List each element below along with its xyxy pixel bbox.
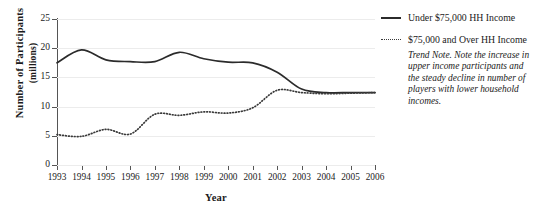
x-tick-mark-1995	[106, 166, 107, 170]
x-tick-mark-1996	[130, 166, 131, 170]
x-tick-mark-1993	[57, 166, 58, 170]
y-tick-label-10: 10	[6, 102, 50, 112]
y-tick-label-5: 5	[6, 131, 50, 141]
x-tick-mark-2001	[253, 166, 254, 170]
legend-label-75000-and-over: $75,000 and Over HH Income	[408, 34, 527, 45]
y-tick-mark-25	[52, 19, 57, 20]
legend-label-under-75000: Under $75,000 HH Income	[408, 12, 515, 23]
chart-figure: Number of Participants (millions) 051015…	[0, 0, 534, 223]
solid-line-swatch	[380, 12, 402, 23]
y-tick-mark-5	[52, 136, 57, 137]
x-tick-mark-2000	[228, 166, 229, 170]
y-tick-label-0: 0	[6, 160, 50, 170]
x-tick-mark-1997	[155, 166, 156, 170]
y-tick-label-15: 15	[6, 72, 50, 82]
legend-item-under-75000: Under $75,000 HH Income	[380, 12, 534, 23]
plot-area	[57, 19, 375, 165]
x-axis-title: Year	[57, 192, 375, 203]
x-tick-mark-2004	[326, 166, 327, 170]
y-tick-mark-10	[52, 107, 57, 108]
legend-item-75000-and-over: $75,000 and Over HH Income	[380, 34, 534, 45]
y-tick-mark-15	[52, 77, 57, 78]
x-tick-mark-2005	[351, 166, 352, 170]
trend-note: Trend Note. Note the increase in upper i…	[408, 50, 532, 107]
dotted-line-swatch	[380, 34, 402, 45]
x-tick-mark-2002	[277, 166, 278, 170]
series-line-under-75000	[57, 50, 375, 93]
x-tick-mark-1999	[204, 166, 205, 170]
series-group	[57, 19, 375, 165]
y-tick-label-20: 20	[6, 43, 50, 53]
x-tick-mark-2003	[302, 166, 303, 170]
y-tick-label-25: 25	[6, 14, 50, 24]
y-tick-mark-20	[52, 48, 57, 49]
x-tick-label-2006: 2006	[358, 172, 392, 183]
y-tick-mark-0	[52, 165, 57, 166]
x-tick-mark-2006	[375, 166, 376, 170]
gridline-0	[57, 165, 375, 166]
x-tick-mark-1998	[179, 166, 180, 170]
series-line-75000-and-over	[57, 89, 375, 136]
x-tick-mark-1994	[82, 166, 83, 170]
y-tick-label-group: 0510152025	[0, 0, 50, 223]
